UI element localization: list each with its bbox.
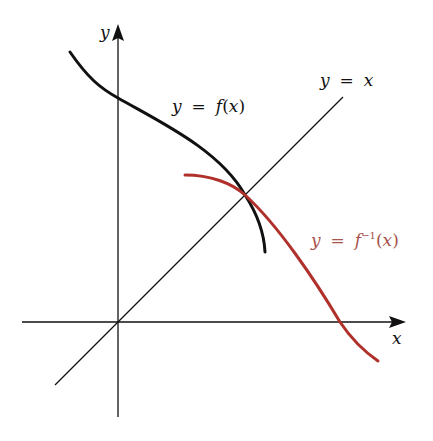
identity-line-label: y = x <box>319 70 374 90</box>
f-inverse-curve-label: y = f−1(x) <box>310 230 399 250</box>
inverse-function-diagram: y x y = x y = f(x) y = f−1(x) <box>0 0 433 441</box>
identity-line <box>55 97 343 385</box>
y-axis-label: y <box>99 22 110 42</box>
f-curve-label: y = f(x) <box>171 96 245 116</box>
x-axis-label: x <box>392 328 402 348</box>
f-inverse-curve <box>185 175 378 361</box>
f-curve <box>70 52 265 252</box>
